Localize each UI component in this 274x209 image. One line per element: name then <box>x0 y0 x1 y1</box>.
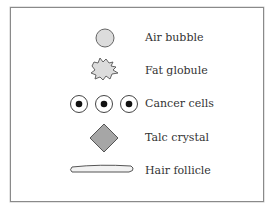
air-bubble-icon <box>96 29 114 47</box>
legend-label-fat-globule: Fat globule <box>145 65 208 76</box>
legend-label-cancer-cells: Cancer cells <box>145 98 214 109</box>
legend-label-talc-crystal: Talc crystal <box>145 132 209 143</box>
legend-label-hair-follicle: Hair follicle <box>145 165 211 176</box>
cancer-cell <box>96 96 113 113</box>
talc-crystal-icon <box>90 124 118 152</box>
cancer-cell <box>71 96 88 113</box>
cancer-cell <box>121 96 138 113</box>
legend-shapes <box>0 0 274 209</box>
legend-label-air-bubble: Air bubble <box>145 32 203 43</box>
cancer-cells-icon <box>71 96 138 113</box>
fat-globule-icon <box>91 58 118 80</box>
hair-follicle-icon <box>71 165 134 172</box>
